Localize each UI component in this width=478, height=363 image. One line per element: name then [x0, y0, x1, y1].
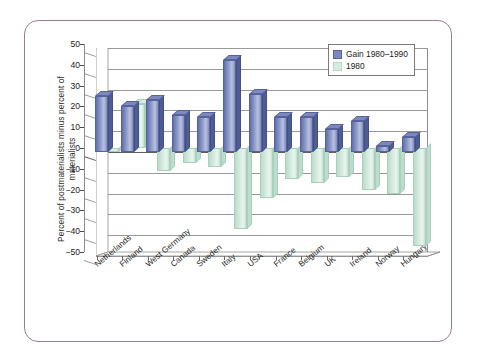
y-tick-label: 20 [70, 101, 80, 111]
bar-face [223, 60, 236, 152]
bar-face [197, 117, 210, 152]
bar-face [274, 117, 287, 152]
bar-chart: Percent of postmaterialists minus percen… [0, 0, 478, 363]
bar-face [260, 148, 273, 198]
bar [413, 148, 426, 246]
bar [172, 115, 185, 152]
bar-face [146, 100, 159, 152]
y-axis-spine [84, 44, 85, 252]
legend-item: 1980 [333, 60, 408, 72]
bar [387, 148, 400, 194]
bar [325, 129, 338, 152]
legend-swatch-green [333, 62, 342, 71]
bar [336, 148, 349, 177]
bar-side [134, 101, 139, 152]
bar-side [159, 95, 164, 152]
gridline-depth [84, 218, 96, 223]
y-tick-label: 40 [70, 60, 80, 70]
bar [260, 148, 273, 198]
gridline-depth [84, 73, 96, 78]
y-tick-label: 30 [70, 81, 80, 91]
bar-face [121, 106, 134, 152]
plot-area: 50403020100−10−20−30−40−50 NetherlandsFi… [96, 48, 440, 260]
bar-side [236, 55, 241, 152]
bar [311, 148, 324, 183]
bar-face [234, 148, 247, 229]
bar-face [387, 148, 400, 194]
bar-face [413, 148, 426, 246]
y-tick-label: −40 [65, 226, 80, 236]
bar-face [285, 148, 298, 179]
bar-side [247, 143, 252, 229]
legend-swatch-blue [333, 50, 342, 59]
bar-face [300, 117, 313, 152]
bar-side [210, 112, 215, 152]
legend-label: 1980 [346, 60, 365, 72]
bar-face [172, 115, 185, 152]
bar [285, 148, 298, 179]
gridline-depth [84, 52, 96, 57]
bar [223, 60, 236, 152]
bar-side [108, 91, 113, 152]
bar [146, 100, 159, 152]
y-tick-label: −20 [65, 185, 80, 195]
legend: Gain 1980–19901980 [328, 44, 415, 76]
bar-face [362, 148, 375, 190]
bar [197, 117, 210, 152]
gridline-depth [84, 198, 96, 203]
legend-label: Gain 1980–1990 [346, 48, 408, 60]
bar [121, 106, 134, 152]
bar-side [185, 110, 190, 152]
y-tick-label: −50 [65, 247, 80, 257]
bar-face [336, 148, 349, 177]
y-tick-label: 10 [70, 122, 80, 132]
bar-face [376, 146, 389, 152]
gridline [96, 214, 428, 215]
bar-side [287, 112, 292, 152]
y-tick-label: 50 [70, 39, 80, 49]
gridline-depth [84, 156, 96, 161]
bar [249, 94, 262, 152]
bar [300, 117, 313, 152]
bar-face [402, 137, 415, 152]
legend-item: Gain 1980–1990 [333, 48, 408, 60]
bar-face [311, 148, 324, 183]
bar-side [313, 112, 318, 152]
bar [274, 117, 287, 152]
bar-face [351, 121, 364, 152]
y-tick-label: −30 [65, 205, 80, 215]
y-tick-label: −10 [65, 164, 80, 174]
bar [376, 146, 389, 152]
bar [95, 96, 108, 152]
bar-face [95, 96, 108, 152]
gridline-depth [84, 177, 96, 182]
bar [234, 148, 247, 229]
bar-side [426, 143, 431, 246]
bar-side [262, 89, 267, 152]
y-tick-mark [80, 252, 84, 253]
bar [351, 121, 364, 152]
bar-face [249, 94, 262, 152]
bar [402, 137, 415, 152]
bar-side [364, 116, 369, 152]
gridline-depth [84, 239, 96, 244]
bar [362, 148, 375, 190]
gridline [96, 235, 428, 236]
bar-face [325, 129, 338, 152]
